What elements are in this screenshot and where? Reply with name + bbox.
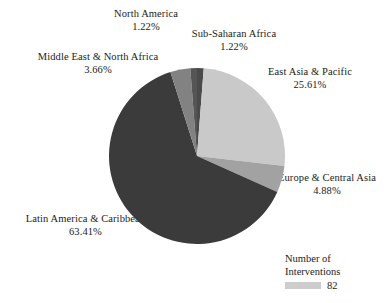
slice-label-name: Middle East & North Africa — [38, 51, 158, 62]
legend-value: 82 — [327, 280, 338, 291]
pie-svg — [109, 68, 285, 244]
slice-label-name: North America — [114, 8, 178, 19]
slice-label-name: Europe & Central Asia — [278, 172, 376, 183]
legend-swatch-icon — [285, 282, 321, 289]
pie-container — [109, 68, 285, 244]
pie-slice — [197, 68, 285, 166]
legend-title-line2: Interventions — [285, 265, 389, 278]
pie-chart-figure: North America 1.22% Sub-Saharan Africa 1… — [0, 0, 391, 303]
legend-title-line1: Number of — [285, 252, 389, 265]
slice-label-percent: 1.22% — [174, 41, 294, 54]
legend-row: 82 — [285, 280, 389, 291]
slice-label-sub-saharan-africa: Sub-Saharan Africa 1.22% — [174, 28, 294, 53]
pie-slice-group — [109, 68, 285, 244]
chart-legend: Number of Interventions 82 — [285, 252, 389, 291]
slice-label-name: Sub-Saharan Africa — [192, 28, 276, 39]
